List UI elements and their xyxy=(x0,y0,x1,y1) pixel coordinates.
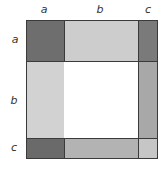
row-label-b: b xyxy=(4,95,24,107)
cell-a-a xyxy=(26,20,65,62)
cell-b-b xyxy=(64,61,139,139)
cell-c-c xyxy=(138,138,158,159)
cell-c-a xyxy=(26,138,65,159)
row-label-a: a xyxy=(5,34,25,46)
column-label-c: c xyxy=(138,4,158,16)
cell-c-b xyxy=(64,138,139,159)
cell-a-c xyxy=(138,20,158,62)
column-label-b: b xyxy=(90,4,110,16)
column-label-a: a xyxy=(34,4,54,16)
cell-a-b xyxy=(64,20,139,62)
cell-b-c xyxy=(138,61,158,139)
cell-b-a xyxy=(26,61,65,139)
row-label-c: c xyxy=(4,142,24,154)
